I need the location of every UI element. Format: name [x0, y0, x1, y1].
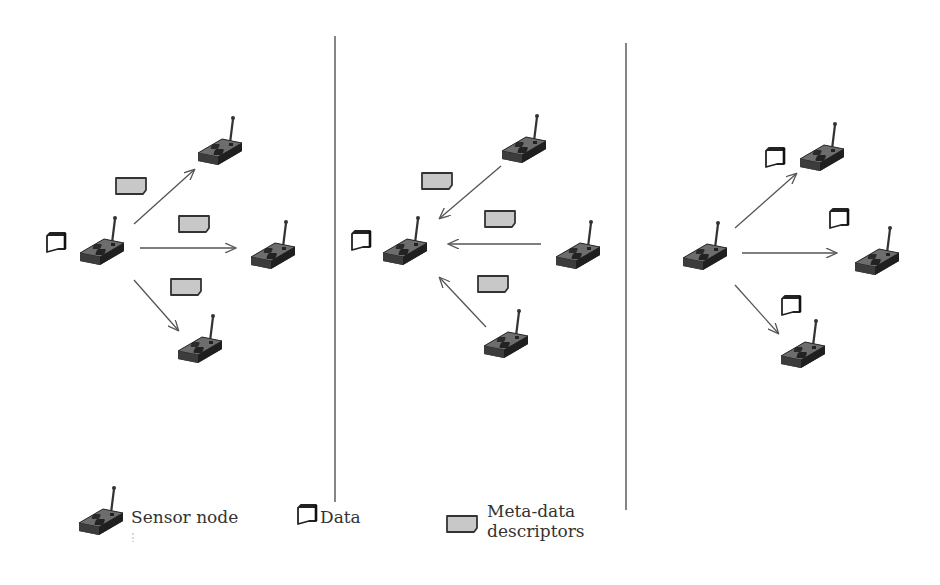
metadata-icon [171, 279, 201, 295]
panel-advertise [47, 116, 295, 363]
arrow [735, 285, 778, 333]
legend-metadata-label-line2: descriptors [487, 521, 585, 541]
sensor-node-icon [683, 221, 727, 270]
sensor-node-icon [198, 116, 242, 165]
sensor-node-icon [855, 226, 899, 275]
sensor-node-icon [800, 122, 844, 171]
legend-sensor-node-label: Sensor node [131, 507, 238, 527]
sensor-node-icon [251, 220, 295, 269]
sensor-node-icon [383, 216, 427, 265]
arrow [735, 174, 796, 228]
panel-transmit [683, 122, 899, 368]
sensor-node-icon [781, 319, 825, 368]
spin-protocol-diagram [0, 0, 940, 585]
legend-metadata-icon [447, 516, 477, 532]
metadata-icon [179, 216, 209, 232]
data-icon [830, 209, 848, 228]
metadata-icon [422, 173, 452, 189]
data-icon [766, 148, 784, 167]
legend-metadata-label-line1: Meta-data [487, 501, 575, 521]
sensor-node-icon [484, 309, 528, 358]
legend-data-label: Data [320, 507, 361, 527]
legend-data-icon [298, 505, 316, 524]
sensor-node-icon [502, 114, 546, 163]
legend-sensor-node-icon [79, 486, 123, 535]
metadata-icon [485, 211, 515, 227]
data-icon [782, 296, 800, 315]
metadata-icon [116, 178, 146, 194]
data-icon [47, 233, 65, 252]
data-icon [352, 231, 370, 250]
sensor-node-icon [556, 220, 600, 269]
panel-request [352, 114, 600, 358]
metadata-icon [478, 276, 508, 292]
sensor-node-icon [80, 216, 124, 265]
sensor-node-icon [178, 314, 222, 363]
